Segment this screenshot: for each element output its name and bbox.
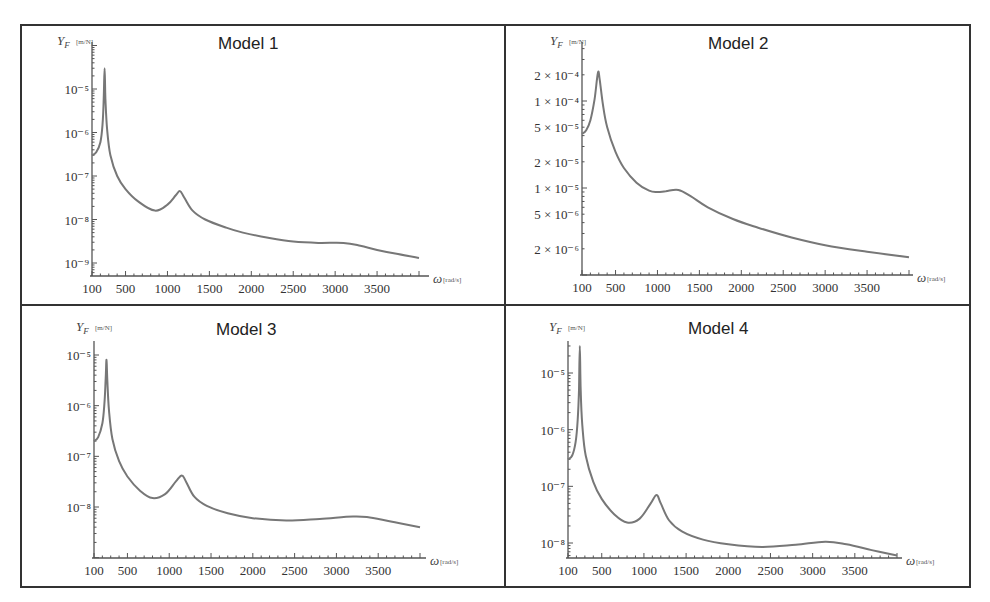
- x-axis-label: ω[rad/s]: [433, 271, 461, 286]
- x-tick-label: 500: [606, 280, 626, 295]
- x-tick-label: 3500: [364, 281, 390, 296]
- x-tick-label: 2000: [728, 280, 754, 295]
- y-tick-label: 10⁻⁶: [66, 399, 91, 414]
- x-axis-title: ω: [430, 553, 439, 568]
- panel-model-2: Model 2 YF[m/N] ω[rad/s] 2 × 10⁻⁴1 × 10⁻…: [534, 33, 945, 295]
- y-tick-label: 10⁻⁸: [540, 536, 565, 551]
- y-tick-label: 2 × 10⁻⁵: [534, 155, 579, 170]
- axes: [566, 341, 902, 558]
- x-tick-label: 1500: [196, 281, 222, 296]
- panel-model-1: Model 1 YF[m/N] ω[rad/s] 10⁻⁵10⁻⁶10⁻⁷10⁻…: [57, 33, 461, 296]
- y-tick-label: 2 × 10⁻⁶: [534, 242, 579, 257]
- x-tick-label: 1000: [631, 563, 657, 578]
- x-tick-label: 500: [118, 563, 138, 578]
- x-axis-title: ω: [433, 271, 442, 286]
- x-tick-label: 1500: [673, 563, 699, 578]
- x-tick-label: 2500: [280, 281, 306, 296]
- y-axis-title: YF: [76, 319, 89, 336]
- chart-title: Model 3: [216, 320, 276, 339]
- y-tick-label: 10⁻⁹: [64, 256, 89, 271]
- x-tick-label: 2000: [240, 563, 266, 578]
- x-tick-label: 100: [82, 281, 102, 296]
- plots-canvas: Model 1 YF[m/N] ω[rad/s] 10⁻⁵10⁻⁶10⁻⁷10⁻…: [0, 0, 990, 602]
- chart-title: Model 4: [688, 319, 748, 338]
- x-tick-label: 3500: [854, 280, 880, 295]
- x-axis-unit: [rad/s]: [916, 558, 934, 566]
- x-tick-label: 3500: [365, 563, 391, 578]
- x-axis-unit: [rad/s]: [443, 276, 461, 284]
- x-tick-label: 1500: [198, 563, 224, 578]
- y-axis-label: YF[m/N]: [76, 319, 112, 336]
- x-tick-label: 100: [572, 280, 592, 295]
- y-tick-label: 1 × 10⁻⁵: [534, 181, 579, 196]
- data-curve: [94, 360, 420, 527]
- y-axis-unit: [m/N]: [569, 38, 586, 46]
- x-axis-title: ω: [906, 553, 915, 568]
- y-tick-label: 10⁻⁸: [66, 500, 91, 515]
- x-tick-label: 2000: [715, 563, 741, 578]
- chart-title: Model 1: [218, 34, 278, 53]
- x-tick-label: 3000: [800, 563, 826, 578]
- axes: [92, 341, 426, 558]
- y-tick-label: 10⁻⁵: [64, 82, 89, 97]
- x-tick-label: 100: [558, 563, 578, 578]
- x-axis-label: ω[rad/s]: [906, 553, 934, 568]
- y-axis-unit: [m/N]: [95, 324, 112, 332]
- y-tick-label: 10⁻⁷: [64, 169, 89, 184]
- x-tick-label: 500: [116, 281, 136, 296]
- chart-title: Model 2: [708, 34, 768, 53]
- x-tick-labels: 100500100015002000250030003500: [82, 281, 390, 296]
- x-tick-labels: 100500100015002000250030003500: [84, 563, 391, 578]
- y-axis-title: YF: [57, 33, 70, 50]
- x-tick-label: 1500: [686, 280, 712, 295]
- x-tick-label: 2500: [282, 563, 308, 578]
- axes: [90, 42, 429, 276]
- x-axis-unit: [rad/s]: [927, 275, 945, 283]
- y-axis-label: YF[m/N]: [549, 319, 585, 336]
- y-tick-label: 10⁻⁶: [540, 423, 565, 438]
- x-axis-title: ω: [917, 270, 926, 285]
- y-axis-label: YF[m/N]: [550, 33, 586, 50]
- y-axis-title: YF: [550, 33, 563, 50]
- x-tick-label: 1000: [156, 563, 182, 578]
- x-tick-label: 1000: [644, 280, 670, 295]
- y-tick-label: 10⁻⁷: [540, 479, 565, 494]
- axes: [580, 42, 913, 275]
- data-curve: [568, 346, 897, 556]
- panel-model-4: Model 4 YF[m/N] ω[rad/s] 10⁻⁵10⁻⁶10⁻⁷10⁻…: [540, 319, 934, 578]
- y-axis-title: YF: [549, 319, 562, 336]
- panel-model-3: Model 3 YF[m/N] ω[rad/s] 10⁻⁵10⁻⁶10⁻⁷10⁻…: [66, 319, 458, 578]
- y-tick-label: 10⁻⁸: [64, 213, 89, 228]
- x-tick-label: 3000: [322, 281, 348, 296]
- x-axis-label: ω[rad/s]: [917, 270, 945, 285]
- x-tick-label: 500: [592, 563, 612, 578]
- y-tick-label: 5 × 10⁻⁶: [534, 207, 579, 222]
- y-tick-label: 1 × 10⁻⁴: [534, 94, 579, 109]
- x-tick-label: 3000: [812, 280, 838, 295]
- y-tick-labels: 10⁻⁵10⁻⁶10⁻⁷10⁻⁸: [66, 348, 91, 515]
- y-tick-label: 10⁻⁵: [540, 366, 565, 381]
- x-tick-label: 3500: [842, 563, 868, 578]
- x-axis-unit: [rad/s]: [440, 558, 458, 566]
- y-tick-labels: 10⁻⁵10⁻⁶10⁻⁷10⁻⁸10⁻⁹: [64, 82, 89, 271]
- data-curve: [582, 72, 909, 258]
- data-curve: [92, 68, 419, 258]
- y-tick-labels: 2 × 10⁻⁴1 × 10⁻⁴5 × 10⁻⁵2 × 10⁻⁵1 × 10⁻⁵…: [534, 68, 579, 257]
- x-tick-labels: 100500100015002000250030003500: [558, 563, 868, 578]
- y-axis-label: YF[m/N]: [57, 33, 93, 50]
- x-tick-labels: 100500100015002000250030003500: [572, 280, 880, 295]
- y-tick-label: 10⁻⁷: [66, 449, 91, 464]
- x-tick-label: 3000: [323, 563, 349, 578]
- x-tick-label: 2500: [770, 280, 796, 295]
- y-axis-unit: [m/N]: [568, 324, 585, 332]
- x-tick-label: 1000: [154, 281, 180, 296]
- y-axis-unit: [m/N]: [76, 38, 93, 46]
- y-tick-label: 10⁻⁶: [64, 126, 89, 141]
- y-tick-label: 2 × 10⁻⁴: [534, 68, 579, 83]
- y-tick-label: 5 × 10⁻⁵: [534, 120, 579, 135]
- x-tick-label: 2500: [757, 563, 783, 578]
- x-axis-label: ω[rad/s]: [430, 553, 458, 568]
- y-tick-label: 10⁻⁵: [66, 348, 91, 363]
- y-tick-labels: 10⁻⁵10⁻⁶10⁻⁷10⁻⁸: [540, 366, 565, 551]
- x-tick-label: 2000: [238, 281, 264, 296]
